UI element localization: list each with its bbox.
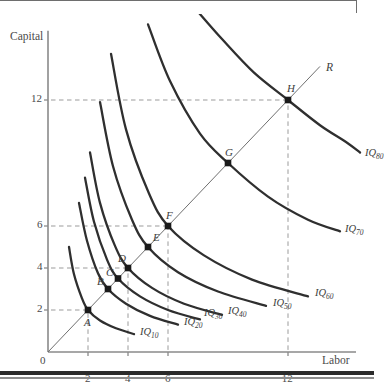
isoquant-curve-IQ60 xyxy=(111,54,308,297)
point-label-B: B xyxy=(97,275,104,287)
data-point-F[interactable] xyxy=(165,223,172,230)
point-label-F: F xyxy=(166,209,173,221)
isoquant-curve-IQ70 xyxy=(148,24,340,231)
point-label-H: H xyxy=(287,82,295,94)
top-frame-border xyxy=(0,0,357,13)
isoquant-legend-IQ50: IQ50 xyxy=(273,297,292,311)
y-tick-label-12: 12 xyxy=(31,92,42,104)
data-point-B[interactable] xyxy=(105,286,112,293)
isoquant-label-text: IQ xyxy=(184,316,195,327)
data-point-H[interactable] xyxy=(285,97,292,104)
isoquant-label-sub: 40 xyxy=(239,310,247,319)
data-point-E[interactable] xyxy=(145,244,152,251)
y-tick-label-2: 2 xyxy=(37,302,43,314)
y-tick-label-6: 6 xyxy=(37,218,43,230)
isoquant-label-text: IQ xyxy=(140,326,151,337)
isoquant-legend-IQ70: IQ70 xyxy=(345,223,364,237)
point-label-D: D xyxy=(118,252,126,264)
isoquant-label-text: IQ xyxy=(345,223,356,234)
isoquant-chart: Capital Labor 0 2461224612 ABCDEFGH IQ10… xyxy=(0,14,374,370)
point-label-G: G xyxy=(225,146,233,158)
point-label-C: C xyxy=(106,266,113,278)
y-axis-title: Capital xyxy=(10,30,43,42)
point-label-A: A xyxy=(84,316,91,328)
isoquant-legend-IQ30: IQ30 xyxy=(204,307,223,321)
data-point-G[interactable] xyxy=(225,160,232,167)
isoquant-legend-IQ80: IQ80 xyxy=(365,147,384,161)
y-tick-label-4: 4 xyxy=(37,260,43,272)
isoquant-legend-IQ20: IQ20 xyxy=(184,316,203,330)
x-axis-title: Labor xyxy=(322,354,349,366)
isoquant-legend-IQ40: IQ40 xyxy=(228,305,247,319)
bottom-rule-thick xyxy=(0,371,374,375)
isoquant-label-sub: 70 xyxy=(356,228,364,237)
isoquant-label-sub: 20 xyxy=(195,321,203,330)
isoquant-label-text: IQ xyxy=(365,147,376,158)
isoquant-label-sub: 80 xyxy=(376,152,384,161)
isoquant-legend-IQ10: IQ10 xyxy=(140,326,159,340)
isoquant-label-text: IQ xyxy=(273,297,284,308)
isoquant-legend-IQ60: IQ60 xyxy=(315,287,334,301)
isoquant-label-sub: 60 xyxy=(326,292,334,301)
isoquant-label-sub: 10 xyxy=(151,331,159,340)
ray-label: R xyxy=(326,61,333,73)
isoquant-label-text: IQ xyxy=(315,287,326,298)
isoquant-label-sub: 50 xyxy=(284,302,292,311)
isoquant-curve-IQ30 xyxy=(85,178,200,320)
data-point-D[interactable] xyxy=(125,265,132,272)
isoquant-label-sub: 30 xyxy=(215,313,223,322)
isoquant-label-text: IQ xyxy=(204,307,215,318)
isoquant-curve-IQ80 xyxy=(198,14,360,152)
point-label-E: E xyxy=(153,231,160,243)
origin-label: 0 xyxy=(40,354,46,366)
bottom-rule-thin xyxy=(0,377,374,379)
data-point-C[interactable] xyxy=(115,275,122,282)
isoquant-label-text: IQ xyxy=(228,305,239,316)
data-point-A[interactable] xyxy=(85,307,92,314)
